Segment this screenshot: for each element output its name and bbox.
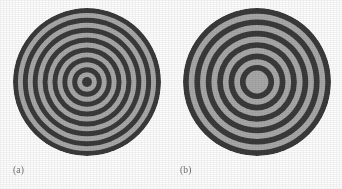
- ring-center-dot-b: [253, 78, 260, 85]
- figure-panel-a: (a): [0, 0, 171, 189]
- ring-pattern-svg-b: [183, 8, 331, 156]
- concentric-ring-pattern-a: [13, 8, 161, 156]
- ring-pattern-svg-a: [13, 8, 161, 156]
- panel-label-b: (b): [180, 166, 192, 176]
- figure-root: (a) (b): [0, 0, 342, 189]
- figure-panel-b: (b): [171, 0, 342, 189]
- ring-center-dot-a: [84, 79, 89, 84]
- concentric-ring-pattern-b: [183, 8, 331, 156]
- panel-label-a: (a): [13, 166, 24, 176]
